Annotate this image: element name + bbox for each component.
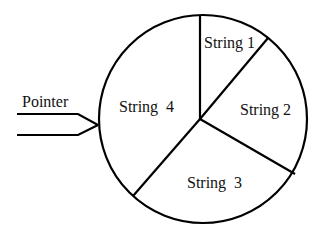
- pointer-label: Pointer: [22, 93, 69, 110]
- pointer-upper-edge: [17, 114, 98, 125]
- sector-label-string-2: String 2: [240, 101, 291, 119]
- spoke-lower-right: [200, 119, 295, 174]
- wheel-outline: [99, 15, 307, 223]
- sector-label-string-1: String 1: [204, 34, 255, 52]
- pointer-lower-edge: [17, 125, 98, 135]
- sector-label-string-3: String 3: [187, 174, 242, 192]
- string-wheel-diagram: Pointer String 1 String 2 String 3 Strin…: [0, 0, 325, 236]
- sector-label-string-4: String 4: [119, 98, 174, 116]
- pointer: Pointer: [17, 93, 98, 135]
